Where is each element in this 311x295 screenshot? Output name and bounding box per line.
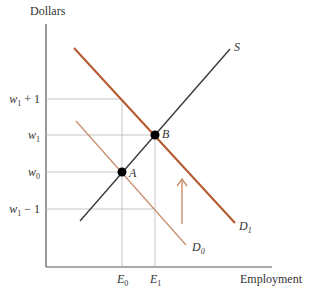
demand-d0-label: D0 <box>191 240 205 256</box>
labor-market-diagram: A B S D1 D0 Dollars Employment w1 + 1 w1… <box>0 0 311 295</box>
y-axis-title: Dollars <box>30 4 66 18</box>
point-label-a: A <box>128 166 137 180</box>
equilibrium-point-b <box>151 131 160 140</box>
demand-d1-label: D1 <box>238 219 252 235</box>
y-tick-w1-minus-1: w1 − 1 <box>9 202 40 218</box>
demand-curve-d0 <box>76 121 186 245</box>
x-axis-title: Employment <box>240 272 303 286</box>
y-tick-w0: w0 <box>28 165 40 181</box>
x-tick-e1: E1 <box>149 272 161 288</box>
equilibrium-point-a <box>118 168 127 177</box>
y-tick-w1-plus-1: w1 + 1 <box>9 92 40 108</box>
x-tick-e0: E0 <box>116 272 128 288</box>
point-label-b: B <box>162 127 170 141</box>
supply-label: S <box>234 40 240 54</box>
y-tick-w1: w1 <box>28 128 40 144</box>
shift-up-arrow-icon <box>177 179 187 224</box>
